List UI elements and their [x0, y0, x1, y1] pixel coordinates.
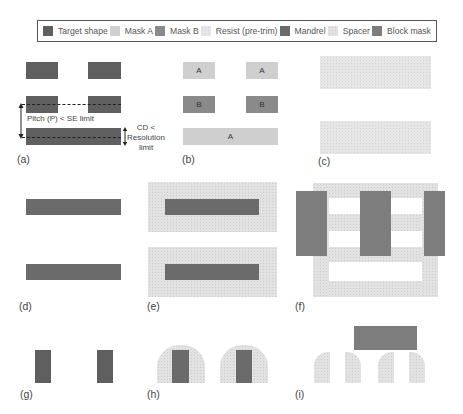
- legend-item-resist: Resist (pre-trim): [201, 26, 278, 36]
- legend-item-target: Target shape: [43, 26, 108, 36]
- panel-label: (g): [20, 388, 33, 400]
- target-shape: [35, 350, 51, 383]
- panel-label: (h): [147, 388, 160, 400]
- mandrel-shape: [165, 264, 259, 280]
- resist-swatch-icon: [201, 26, 211, 36]
- pitch-guide-line: [22, 137, 121, 138]
- mandrel-shape: [26, 199, 121, 215]
- target-shape-swatch-icon: [43, 26, 53, 36]
- mandrel-shape: [165, 199, 259, 215]
- mask-b-shape: B: [246, 96, 278, 113]
- mask-a-shape: A: [183, 128, 278, 145]
- block-mask-shape: [424, 191, 445, 256]
- target-shape: [26, 62, 58, 79]
- block-mask-shape: [296, 191, 327, 256]
- mask-b-swatch-icon: [155, 26, 165, 36]
- pitch-arrow-icon: [17, 102, 25, 140]
- legend-label: Spacer: [343, 26, 370, 36]
- cd-note-line: CD <: [126, 123, 166, 133]
- legend-label: Resist (pre-trim): [216, 26, 278, 36]
- legend-label: Mask A: [125, 26, 153, 36]
- cd-note-line: Resolution: [126, 133, 166, 143]
- spacer-shape: [345, 352, 361, 383]
- resist-shape: [320, 121, 431, 154]
- legend-item-spacer: Spacer: [328, 26, 370, 36]
- pitch-note: Pitch (P) < SE limit: [27, 114, 94, 124]
- legend-label: Mask B: [170, 26, 199, 36]
- target-shape: [97, 350, 113, 383]
- target-shape: [88, 62, 121, 79]
- resist-shape: [320, 56, 431, 89]
- legend-label: Target shape: [58, 26, 108, 36]
- mask-a-shape: A: [246, 62, 278, 79]
- mask-b-shape: B: [183, 96, 215, 113]
- spacer-shape: [409, 352, 425, 383]
- mask-a-shape: A: [183, 62, 215, 79]
- panel-label: (c): [318, 155, 330, 167]
- spacer-swatch-icon: [328, 26, 338, 36]
- mandrel-shape: [236, 350, 252, 383]
- spacer-shape: [314, 352, 330, 383]
- spacer-shape: [313, 281, 438, 297]
- cd-note-line: limit: [126, 143, 166, 153]
- panel-label: (e): [147, 300, 160, 312]
- panel-label: (b): [182, 153, 195, 165]
- legend-label: Block mask: [387, 26, 431, 36]
- legend: Target shape Mask A Mask B Resist (pre-t…: [37, 20, 437, 42]
- block-mask-shape: [354, 326, 417, 350]
- mandrel-swatch-icon: [280, 26, 290, 36]
- legend-item-mask-a: Mask A: [110, 26, 153, 36]
- block-mask-shape: [360, 191, 391, 256]
- panel-label: (i): [295, 388, 304, 400]
- spacer-shape: [378, 352, 394, 383]
- legend-item-mask-b: Mask B: [155, 26, 199, 36]
- mandrel-shape: [26, 264, 121, 280]
- panel-label: (a): [17, 153, 30, 165]
- legend-item-mandrel: Mandrel: [280, 26, 326, 36]
- block-mask-swatch-icon: [372, 26, 382, 36]
- panel-label: (d): [19, 300, 32, 312]
- cd-note: CD < Resolution limit: [126, 123, 166, 153]
- panel-label: (f): [295, 300, 305, 312]
- legend-item-block: Block mask: [372, 26, 431, 36]
- pitch-guide-line: [22, 104, 121, 105]
- mask-a-swatch-icon: [110, 26, 120, 36]
- legend-label: Mandrel: [295, 26, 326, 36]
- mandrel-shape: [172, 350, 189, 383]
